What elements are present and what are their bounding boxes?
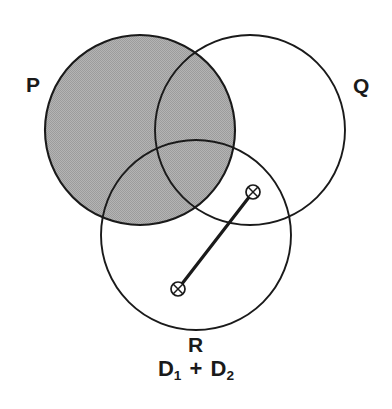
- formula-term-2-subscript: 2: [226, 368, 234, 383]
- venn-diagram-figure: P Q R D1 + D2: [0, 0, 392, 409]
- formula-term-2: D2: [211, 356, 234, 381]
- marker-lower-circle-x-icon: [171, 282, 185, 296]
- formula-operator: +: [188, 356, 205, 381]
- formula-term-2-base: D: [211, 356, 227, 381]
- set-label-q: Q: [353, 75, 370, 96]
- formula-term-1-base: D: [158, 356, 174, 381]
- marker-upper-circle-x-icon: [246, 185, 260, 199]
- set-label-p: P: [26, 74, 40, 95]
- set-label-r: R: [188, 334, 203, 355]
- formula-term-1: D1: [158, 356, 181, 381]
- figure-caption-formula: D1 + D2: [0, 358, 392, 380]
- formula-term-1-subscript: 1: [174, 368, 182, 383]
